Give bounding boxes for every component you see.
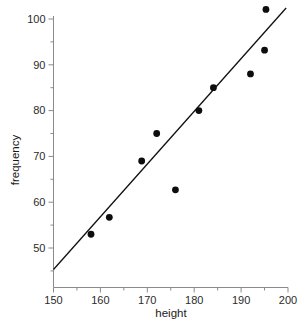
data-point [195,107,202,114]
x-tick-label: 200 [279,294,297,306]
x-tick-label: 160 [91,294,109,306]
data-point [106,214,113,221]
scatter-chart: 5060708090100 150160170180190200 height … [0,0,304,329]
y-tick-label: 50 [33,242,45,254]
y-tick-label: 70 [33,150,45,162]
x-axis-title: height [155,307,187,319]
x-tick-label: 180 [185,294,203,306]
x-tick-label: 150 [44,294,62,306]
data-point [172,186,179,193]
chart-background [0,0,304,329]
y-tick-label: 60 [33,196,45,208]
y-tick-label: 80 [33,104,45,116]
chart-canvas: 5060708090100 150160170180190200 height … [0,0,304,329]
data-point [261,47,268,54]
data-point [88,231,95,238]
data-point [138,158,145,165]
y-tick-label: 100 [27,13,45,25]
x-tick-label: 170 [138,294,156,306]
data-point [263,6,270,13]
data-point [153,130,160,137]
data-point [210,84,217,91]
data-point [247,71,254,78]
y-axis-title: frequency [9,135,21,186]
y-tick-label: 90 [33,59,45,71]
x-tick-label: 190 [232,294,250,306]
